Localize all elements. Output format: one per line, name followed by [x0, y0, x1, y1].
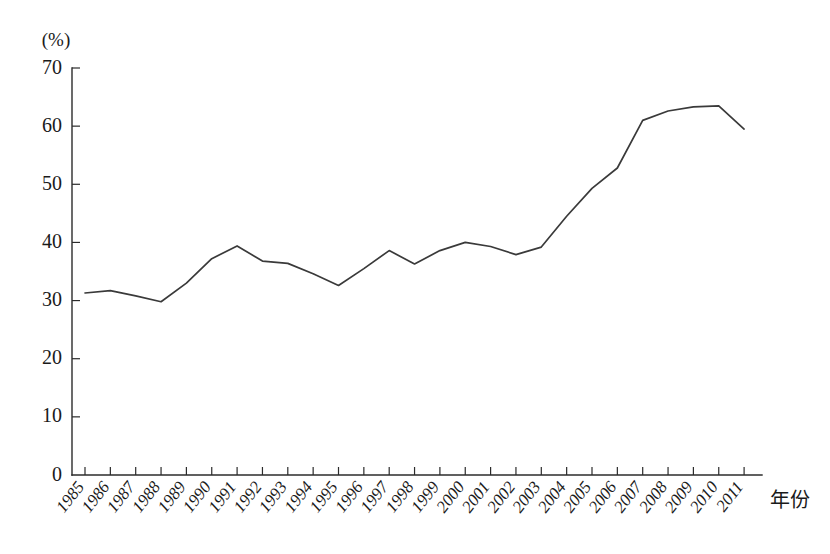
- y-axis-tick-label: 40: [42, 230, 62, 252]
- chart-canvas: (%)0102030405060701985198619871988198919…: [0, 0, 830, 554]
- y-axis-unit-label: (%): [42, 29, 70, 51]
- y-axis-tick-label: 10: [42, 404, 62, 426]
- line-chart: (%)0102030405060701985198619871988198919…: [0, 0, 830, 554]
- y-axis-tick-label: 0: [52, 463, 62, 485]
- y-axis-tick-label: 70: [42, 56, 62, 78]
- y-axis-tick-label: 30: [42, 288, 62, 310]
- x-axis-title: 年份: [770, 489, 810, 511]
- data-series-line: [85, 106, 744, 302]
- y-axis-tick-label: 50: [42, 172, 62, 194]
- y-axis-tick-label: 60: [42, 114, 62, 136]
- y-axis-tick-label: 20: [42, 346, 62, 368]
- x-axis-tick-label: 2011: [712, 478, 747, 516]
